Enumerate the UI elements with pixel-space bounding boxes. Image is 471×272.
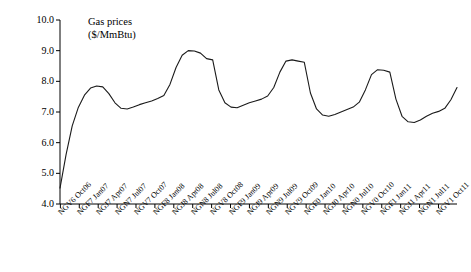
y-axis-ticks xyxy=(56,20,60,204)
chart-title: Gas prices xyxy=(88,16,132,28)
y-tick-label: 10.0 xyxy=(20,15,54,25)
y-tick-label: 6.0 xyxy=(20,138,54,148)
plot-axes xyxy=(56,20,457,208)
chart-subtitle: ($/MmBtu) xyxy=(88,29,136,41)
price-series-line xyxy=(60,51,457,188)
y-tick-label: 5.0 xyxy=(20,168,54,178)
data-series-group xyxy=(60,51,457,188)
y-tick-label: 8.0 xyxy=(20,76,54,86)
y-tick-label: 4.0 xyxy=(20,199,54,209)
y-tick-label: 9.0 xyxy=(20,46,54,56)
y-tick-label: 7.0 xyxy=(20,107,54,117)
